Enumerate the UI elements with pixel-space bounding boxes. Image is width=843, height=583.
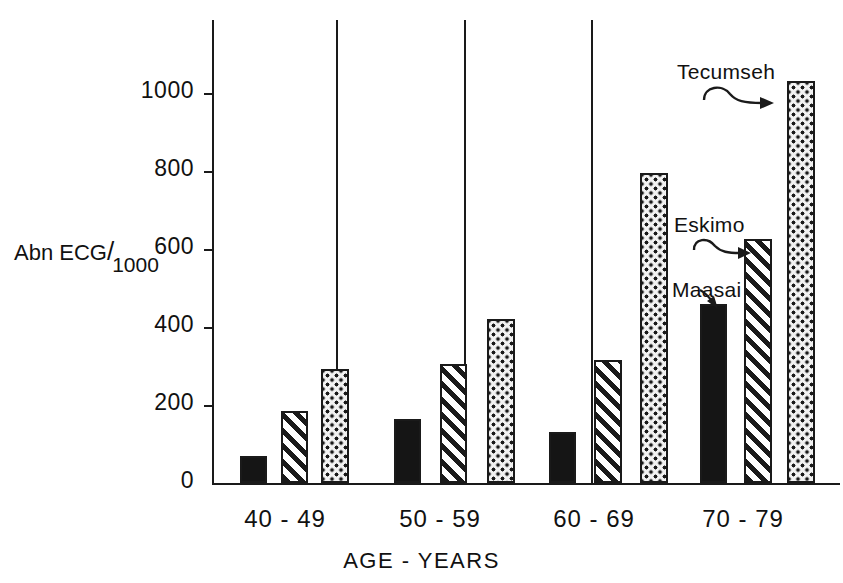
bar-eskimo-50-59 — [440, 364, 467, 483]
bar-maasai-60-69 — [549, 432, 576, 483]
bar-maasai-50-59 — [394, 419, 421, 483]
bar-tecumseh-60-69 — [640, 173, 668, 483]
bar-maasai-40-49 — [240, 456, 267, 483]
annotation-arrow-maasai — [697, 287, 727, 313]
annotation-arrow-tecumseh — [700, 82, 792, 116]
bar-maasai-70-79 — [700, 304, 727, 483]
x-group-label-70-79: 70 - 79 — [673, 505, 813, 533]
x-group-label-60-69: 60 - 69 — [524, 505, 664, 533]
annotation-label-tecumseh: Tecumseh — [677, 60, 775, 84]
annotation-arrow-eskimo — [690, 234, 762, 264]
x-axis-title: AGE - YEARS — [0, 548, 843, 574]
x-group-label-50-59: 50 - 59 — [370, 505, 510, 533]
bar-tecumseh-50-59 — [487, 319, 515, 483]
x-group-label-40-49: 40 - 49 — [215, 505, 355, 533]
bar-tecumseh-40-49 — [321, 369, 349, 483]
bar-eskimo-70-79 — [744, 239, 772, 483]
chart-figure: 0 200 400 600 800 1000 Abn ECG/1000 — [0, 0, 843, 583]
bar-tecumseh-70-79 — [787, 81, 815, 483]
bar-eskimo-40-49 — [281, 411, 308, 483]
bar-eskimo-60-69 — [594, 360, 622, 483]
